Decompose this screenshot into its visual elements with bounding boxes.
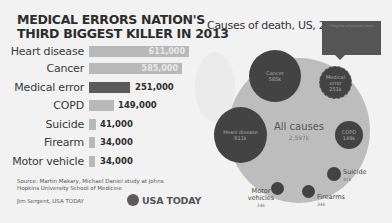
bubble-heart-disease: Heart disease 611k: [214, 107, 267, 163]
bubble-cancer: Cancer 585k: [249, 50, 301, 102]
bar-value: 251,000: [135, 82, 174, 92]
bar-heart-disease: 611,000: [89, 46, 189, 57]
bar-medical-error: [89, 82, 130, 93]
bar-motor-vehicle: [89, 156, 95, 167]
bubble-value: 34k: [247, 202, 275, 209]
bar-label: COPD: [53, 99, 84, 112]
logo-text: USA TODAY: [142, 195, 201, 206]
bubble-value: 41k: [343, 176, 367, 183]
usa-today-logo: USA TODAY: [127, 194, 201, 206]
bubble-label: Medical error: [320, 74, 351, 86]
bubble-value: 34k: [317, 201, 345, 208]
label-firearms: Firearms 34k: [317, 194, 345, 208]
bubble-label: Firearms: [317, 194, 345, 201]
source-note: Source: Martin Makary, Michael Daniel st…: [17, 178, 187, 192]
bar-row-suicide: Suicide 41,000: [0, 119, 200, 131]
bar-label: Firearm: [44, 136, 84, 149]
logo-circle-icon: [127, 194, 139, 206]
bar-copd: [89, 100, 114, 111]
bar-value: 149,000: [118, 100, 157, 110]
bubble-value: 251k: [329, 86, 341, 92]
bar-row-cancer: Cancer 585,000: [0, 63, 200, 75]
credit-line: Jim Sergent, USA TODAY: [17, 198, 84, 204]
bar-value: 34,000: [100, 137, 133, 147]
bar-label: Suicide: [46, 118, 84, 131]
bar-row-medical-error: Medical error 251,000: [0, 82, 200, 94]
bubble-copd: COPD 149k: [335, 121, 363, 149]
bubble-value: 2,597k: [289, 134, 310, 141]
bubble-label: All causes: [274, 121, 324, 132]
bar-label: Medical error: [14, 81, 84, 94]
bar-suicide: [89, 119, 96, 130]
bubble-label: Suicide: [343, 169, 367, 176]
bar-label: Heart disease: [11, 45, 84, 58]
bubble-value: 611k: [234, 135, 246, 141]
bar-value: 611,000: [149, 47, 185, 56]
bubble-medical-error: Medical error 251k: [319, 66, 352, 99]
bar-value: 585,000: [142, 64, 178, 73]
bubble-value: 585k: [269, 76, 281, 82]
bar-label: Cancer: [46, 62, 84, 75]
bubble-firearms: [302, 185, 315, 198]
bar-value: 34,000: [100, 156, 133, 166]
title-line-2: THIRD BIGGEST KILLER IN 2013: [17, 27, 229, 41]
bar-row-firearm: Firearm 34,000: [0, 137, 200, 149]
bar-row-motor-vehicle: Motor vehicle 34,000: [0, 156, 200, 168]
label-motor-vehicles: Motor vehicles 34k: [247, 188, 275, 209]
label-suicide: Suicide 41k: [343, 169, 367, 183]
bubble-suicide: [327, 167, 341, 181]
annotation-pointer-icon: [335, 55, 345, 60]
bar-row-heart-disease: Heart disease 611,000: [0, 46, 200, 58]
chart-title: MEDICAL ERRORS NATION'S THIRD BIGGEST KI…: [17, 13, 229, 41]
bar-row-copd: COPD 149,000: [0, 100, 200, 112]
title-line-1: MEDICAL ERRORS NATION'S: [17, 13, 229, 27]
bar-cancer: 585,000: [89, 63, 182, 74]
bar-value: 41,000: [100, 119, 133, 129]
medical-error-annotation: (illegible annotation text): [322, 21, 381, 55]
bubble-value: 149k: [343, 135, 355, 141]
bar-firearm: [89, 137, 95, 148]
bubble-label: Motor vehicles: [247, 188, 275, 202]
bar-label: Motor vehicle: [12, 155, 84, 168]
